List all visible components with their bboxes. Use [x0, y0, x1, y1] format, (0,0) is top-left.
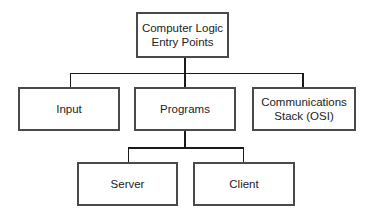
- connector-to-programs: [184, 73, 186, 88]
- connector-to-server: [128, 147, 130, 163]
- node-label-line2: Entry Points: [152, 35, 214, 49]
- node-computer-logic-entry-points: Computer Logic Entry Points: [136, 12, 229, 58]
- connector-level2-bus: [128, 147, 244, 149]
- node-client: Client: [193, 162, 295, 206]
- node-label: Input: [56, 102, 82, 116]
- connector-to-client: [243, 147, 245, 163]
- node-communications-stack: Communications Stack (OSI): [252, 87, 356, 131]
- node-programs: Programs: [134, 87, 236, 131]
- connector-level1-bus: [70, 73, 303, 75]
- connector-to-input: [70, 73, 72, 88]
- node-label: Server: [111, 177, 145, 191]
- node-label-line1: Computer Logic: [142, 21, 223, 35]
- connector-to-communications: [302, 73, 304, 88]
- connector-root-down: [184, 56, 186, 74]
- node-label-line1: Communications: [261, 95, 347, 109]
- node-server: Server: [77, 162, 178, 206]
- node-label: Client: [229, 177, 258, 191]
- connector-programs-down: [184, 129, 186, 148]
- node-input: Input: [18, 87, 120, 131]
- node-label-line2: Stack (OSI): [274, 109, 333, 123]
- node-label: Programs: [160, 102, 210, 116]
